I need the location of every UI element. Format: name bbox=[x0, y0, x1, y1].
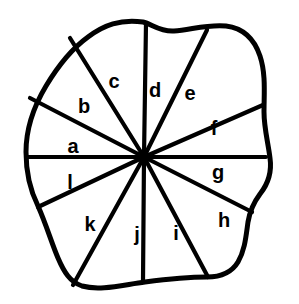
region-label-a: a bbox=[67, 135, 79, 157]
figure-container: a b c d e f g h i j k l bbox=[0, 0, 299, 304]
region-label-i: i bbox=[173, 222, 179, 244]
region-label-d: d bbox=[149, 79, 161, 101]
sector-diagram: a b c d e f g h i j k l bbox=[0, 0, 299, 304]
region-label-j: j bbox=[133, 223, 140, 245]
region-label-f: f bbox=[211, 117, 218, 139]
region-label-h: h bbox=[218, 209, 230, 231]
region-label-k: k bbox=[84, 213, 96, 235]
region-label-g: g bbox=[212, 161, 224, 183]
region-label-b: b bbox=[78, 95, 90, 117]
region-label-l: l bbox=[67, 171, 73, 193]
region-label-e: e bbox=[184, 82, 195, 104]
spoke-i-j bbox=[143, 157, 144, 281]
spoke-c-d bbox=[144, 23, 146, 157]
region-label-c: c bbox=[108, 70, 119, 92]
hub-point bbox=[138, 151, 150, 163]
